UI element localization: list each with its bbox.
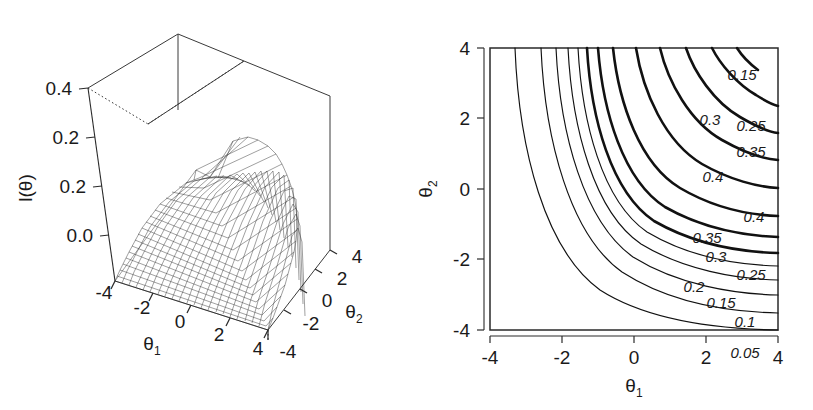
surface-zlabel-theta: θ (15, 181, 36, 192)
contour-xtick-4: 4 (773, 347, 784, 368)
surface-bounding-box (88, 34, 330, 340)
contour-xtick-3: 2 (701, 347, 712, 368)
contour-label-2: 0.3 (700, 111, 722, 128)
surface-ytick-3: 2 (337, 268, 348, 289)
contour-x-axis-theta: θ (625, 375, 636, 396)
contour-plot-svg: 0.15 0.25 0.3 0.35 0.4 0.4 0.35 0.3 0.25… (410, 0, 813, 410)
surface-y-axis-theta: θ (345, 301, 356, 322)
contour-y-axis-label: θ2 (415, 180, 440, 198)
contour-ytick-2: 0 (459, 179, 470, 200)
contour-label-6: 0.35 (692, 229, 722, 246)
contour-label-8: 0.25 (736, 266, 766, 283)
figure-root: 0.4 0.2 0.2 0.0 l(θ) (0, 0, 813, 410)
contour-plot-frame (490, 48, 778, 330)
contour-label-3: 0.35 (736, 143, 766, 160)
contour-label-7: 0.3 (706, 248, 728, 265)
contour-x-axis-sub: 1 (636, 386, 643, 400)
surface-x-axis-sub: 1 (154, 344, 161, 358)
contour-label-10: 0.15 (706, 294, 736, 311)
contour-label-1: 0.25 (736, 117, 766, 134)
surface-theta1-axis: -4 -2 0 2 4 θ1 (96, 281, 268, 359)
surface-xtick-1: -2 (134, 297, 151, 318)
surface-ztick-0: 0.4 (46, 78, 73, 99)
surface-x-axis-theta: θ (143, 333, 154, 354)
contour-xtick-2: 0 (629, 347, 640, 368)
svg-text:l(θ): l(θ) (15, 174, 36, 201)
surface-ztick-1: 0.2 (53, 127, 79, 148)
surface-xtick-0: -4 (96, 282, 113, 303)
surface-z-axis: 0.4 0.2 0.2 0.0 l(θ) (15, 78, 109, 246)
contour-y-axis: -4 -2 0 2 4 θ2 (415, 38, 484, 341)
surface-ytick-4: 4 (352, 246, 363, 267)
surface-theta2-axis: -4 -2 0 2 4 θ2 (268, 246, 363, 362)
surface-plot-svg: 0.4 0.2 0.2 0.0 l(θ) (0, 0, 410, 410)
contour-curves (515, 48, 778, 330)
contour-label-9: 0.2 (684, 278, 706, 295)
surface-y-axis-sub: 2 (356, 312, 363, 326)
contour-label-4: 0.4 (703, 168, 724, 185)
contour-ytick-1: -2 (453, 249, 470, 270)
surface-ytick-2: 0 (322, 290, 333, 311)
contour-label-11: 0.1 (735, 313, 756, 330)
contour-label-12: 0.05 (730, 344, 760, 361)
contour-x-axis-label: θ1 (625, 375, 643, 400)
contour-ytick-4: 4 (459, 38, 470, 59)
contour-xtick-0: -4 (482, 347, 499, 368)
contour-y-axis-theta: θ (415, 187, 436, 198)
surface-ytick-0: -4 (280, 341, 297, 362)
contour-ytick-0: -4 (453, 320, 470, 341)
surface-xtick-4: 4 (253, 338, 264, 359)
surface-y-axis-label: θ2 (345, 301, 363, 326)
contour-label-5: 0.4 (744, 208, 765, 225)
svg-text:θ2: θ2 (415, 180, 440, 198)
surface-zlabel-close: ) (15, 174, 36, 180)
surface-zlabel-lead: l( (15, 191, 36, 202)
contour-xtick-1: -2 (554, 347, 571, 368)
surface-z-axis-label: l(θ) (15, 174, 36, 201)
surface-ytick-1: -2 (303, 313, 320, 334)
contour-plot-panel: 0.15 0.25 0.3 0.35 0.4 0.4 0.35 0.3 0.25… (410, 0, 813, 410)
contour-ytick-3: 2 (459, 108, 470, 129)
surface-ztick-3: 0.0 (67, 225, 93, 246)
surface-plot-panel: 0.4 0.2 0.2 0.0 l(θ) (0, 0, 410, 410)
contour-y-axis-sub: 2 (426, 180, 440, 187)
surface-xtick-2: 0 (175, 311, 186, 332)
surface-x-axis-label: θ1 (143, 333, 161, 358)
contour-label-0: 0.15 (727, 66, 757, 83)
surface-ztick-2: 0.2 (60, 176, 86, 197)
contour-value-labels: 0.15 0.25 0.3 0.35 0.4 0.4 0.35 0.3 0.25… (684, 66, 767, 361)
surface-xtick-3: 2 (214, 324, 225, 345)
